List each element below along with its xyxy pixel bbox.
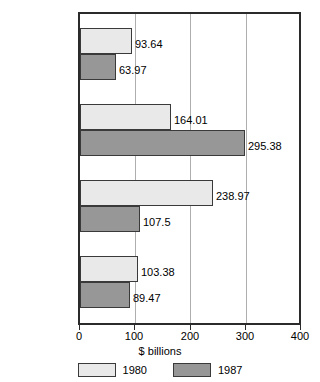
gridline-300 xyxy=(246,14,247,323)
value-label-asia-1980: 164.01 xyxy=(174,114,208,126)
value-label-africa-1980: 93.64 xyxy=(135,38,163,50)
legend-label-1980: 1980 xyxy=(123,364,147,376)
chart-legend: 1980 1987 xyxy=(0,363,320,377)
value-label-latin-america-1987: 89.47 xyxy=(133,292,161,304)
bar-asia-1987 xyxy=(80,130,245,156)
xtick-label-200: 200 xyxy=(181,330,199,342)
bar-middle-east-1987 xyxy=(80,206,140,232)
value-label-africa-1987: 63.97 xyxy=(119,64,147,76)
xtick-label-0: 0 xyxy=(76,330,82,342)
legend-item-1987: 1987 xyxy=(173,363,242,377)
value-label-asia-1987: 295.38 xyxy=(248,140,282,152)
legend-swatch-1987 xyxy=(173,363,211,377)
xtick-label-100: 100 xyxy=(125,330,143,342)
xtick-label-300: 300 xyxy=(236,330,254,342)
x-axis-title: $ billions xyxy=(0,345,320,357)
value-label-middle-east-1987: 107.5 xyxy=(143,216,171,228)
bar-latin-america-1987 xyxy=(80,282,130,308)
legend-item-1980: 1980 xyxy=(78,363,147,377)
bar-middle-east-1980 xyxy=(80,180,213,206)
plot-area xyxy=(78,12,301,325)
bar-latin-america-1980 xyxy=(80,256,138,282)
legend-label-1987: 1987 xyxy=(218,364,242,376)
bar-africa-1980 xyxy=(80,28,132,54)
xtick-label-400: 400 xyxy=(291,330,309,342)
legend-swatch-1980 xyxy=(78,363,116,377)
bar-africa-1987 xyxy=(80,54,116,80)
value-label-latin-america-1980: 103.38 xyxy=(141,266,175,278)
bar-asia-1980 xyxy=(80,104,171,130)
value-label-middle-east-1980: 238.97 xyxy=(216,190,250,202)
chart-title: 1980 AND 1987 xyxy=(0,0,320,3)
bar-chart: 1980 AND 1987 93.64 63.97 164.01 295.38 … xyxy=(0,0,320,382)
gridline-200 xyxy=(190,14,191,323)
